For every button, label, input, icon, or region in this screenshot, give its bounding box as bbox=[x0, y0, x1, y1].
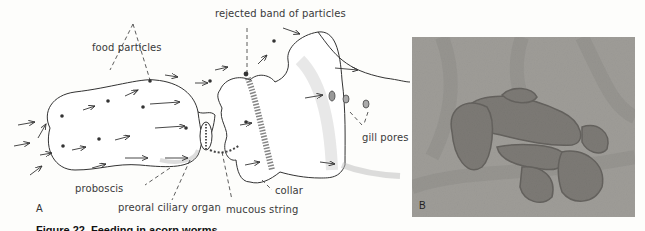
photo-acorn-worm-castings: B bbox=[412, 37, 635, 217]
diagram-drawing bbox=[0, 0, 410, 231]
label-preoral-ciliary-organ: preoral ciliary organ bbox=[118, 202, 221, 213]
figure-caption: Figure 22. Feeding in acorn worms bbox=[36, 224, 218, 231]
label-mucous-string: mucous string bbox=[226, 204, 298, 215]
label-collar: collar bbox=[275, 185, 303, 196]
panel-letter-b: B bbox=[419, 200, 426, 211]
label-rejected-band: rejected band of particles bbox=[215, 8, 346, 19]
label-proboscis: proboscis bbox=[75, 183, 123, 194]
label-gill-pores: gill pores bbox=[362, 132, 409, 143]
label-food-particles: food particles bbox=[92, 42, 162, 53]
proboscis-shape bbox=[47, 80, 201, 170]
panel-letter-a: A bbox=[36, 203, 43, 214]
